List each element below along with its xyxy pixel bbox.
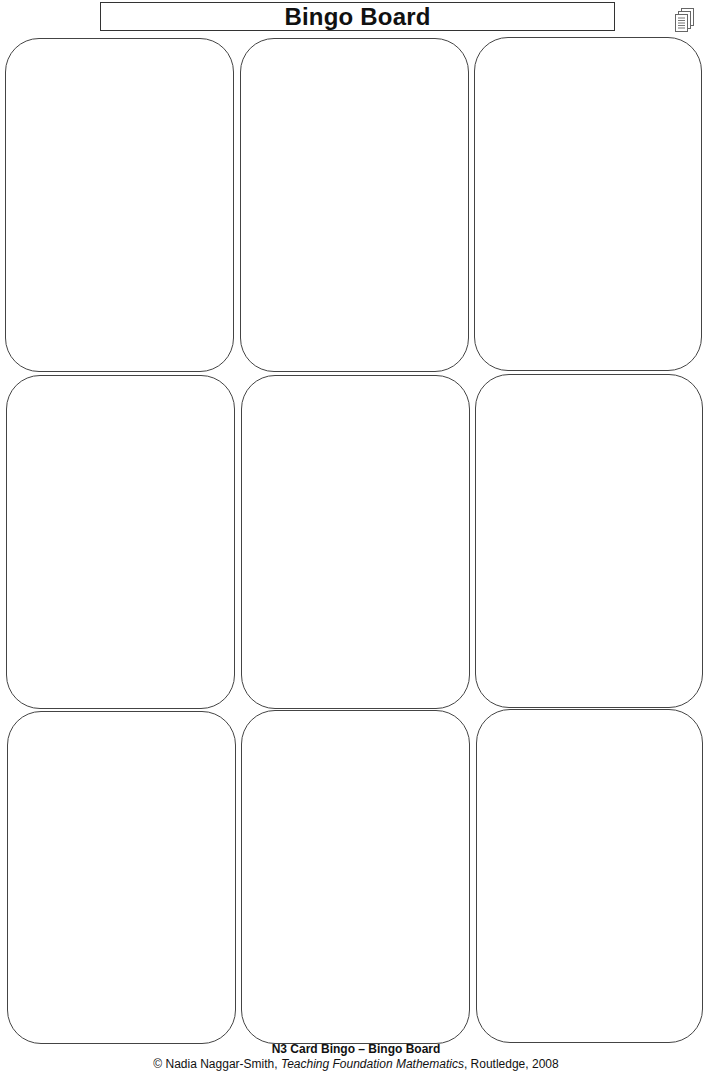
credit-publisher: , Routledge, 2008 [464,1057,559,1071]
credit-book-title: Teaching Foundation Mathematics [281,1057,464,1071]
bingo-card-r3c2[interactable] [241,710,470,1044]
footer-credit: © Nadia Naggar-Smith, Teaching Foundatio… [0,1057,712,1071]
bingo-card-r1c3[interactable] [474,37,702,371]
bingo-card-r1c1[interactable] [5,38,234,372]
bingo-card-r2c2[interactable] [241,375,470,709]
title-box: Bingo Board [100,2,615,31]
bingo-card-r3c1[interactable] [7,711,236,1044]
footer-title: N3 Card Bingo – Bingo Board [0,1042,712,1056]
bingo-card-r2c3[interactable] [475,374,703,708]
page-title: Bingo Board [284,3,430,31]
bingo-card-r1c2[interactable] [240,38,469,372]
document-stack-icon [675,8,695,34]
bingo-card-r3c3[interactable] [476,709,703,1043]
credit-author: © Nadia Naggar-Smith, [153,1057,281,1071]
bingo-card-r2c1[interactable] [6,375,235,709]
